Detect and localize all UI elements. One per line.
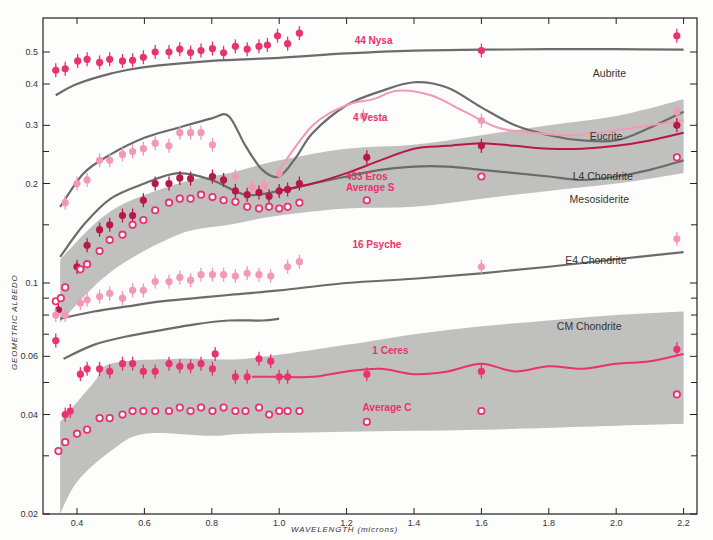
data-point bbox=[129, 57, 136, 64]
data-point bbox=[232, 408, 238, 414]
data-point bbox=[244, 270, 251, 277]
data-point bbox=[478, 117, 485, 124]
data-point bbox=[364, 419, 370, 425]
data-point bbox=[264, 41, 271, 48]
data-point bbox=[176, 274, 183, 281]
data-point bbox=[62, 65, 69, 72]
data-point bbox=[129, 212, 136, 219]
data-point bbox=[84, 261, 90, 267]
data-point bbox=[84, 296, 91, 303]
data-point bbox=[209, 173, 216, 180]
data-point bbox=[209, 45, 216, 52]
label-l4-chondrite: L4 Chondrite bbox=[573, 170, 633, 182]
data-point bbox=[255, 189, 262, 196]
data-point bbox=[177, 404, 183, 410]
data-point bbox=[152, 408, 158, 414]
label-average-c: Average C bbox=[362, 402, 411, 413]
x-tick-label: 2.0 bbox=[610, 518, 623, 528]
data-point bbox=[478, 173, 484, 179]
data-point bbox=[276, 373, 283, 380]
data-point bbox=[256, 404, 262, 410]
data-point bbox=[119, 232, 125, 238]
data-point bbox=[62, 284, 68, 290]
data-point bbox=[84, 365, 91, 372]
data-point bbox=[187, 408, 193, 414]
data-point bbox=[106, 368, 113, 375]
label-16-psyche: 16 Psyche bbox=[352, 239, 401, 250]
data-point bbox=[129, 148, 136, 155]
data-point bbox=[296, 408, 302, 414]
data-point bbox=[176, 174, 183, 181]
data-point bbox=[106, 237, 112, 243]
data-point bbox=[266, 411, 272, 417]
data-point bbox=[165, 180, 172, 187]
data-point bbox=[152, 278, 159, 285]
label-1-ceres: 1 Ceres bbox=[372, 345, 409, 356]
data-point bbox=[187, 277, 194, 284]
data-point bbox=[260, 182, 267, 189]
label-4-vesta: 4 Vesta bbox=[353, 112, 388, 123]
data-point bbox=[276, 205, 282, 211]
data-point bbox=[62, 311, 69, 318]
y-tick-label: 0.4 bbox=[25, 79, 38, 89]
x-tick-label: 0.4 bbox=[71, 518, 84, 528]
data-point bbox=[209, 365, 216, 372]
data-point bbox=[119, 411, 125, 417]
data-point bbox=[478, 368, 485, 375]
data-point bbox=[84, 242, 91, 249]
data-point bbox=[96, 157, 103, 164]
label-mesosiderite: Mesosiderite bbox=[570, 193, 630, 205]
data-point bbox=[232, 373, 239, 380]
data-point bbox=[255, 271, 262, 278]
data-point bbox=[255, 355, 262, 362]
data-point bbox=[197, 271, 204, 278]
data-point bbox=[119, 295, 126, 302]
data-point bbox=[363, 371, 370, 378]
data-point bbox=[220, 271, 227, 278]
data-point bbox=[177, 195, 183, 201]
x-tick-label: 0.6 bbox=[138, 518, 151, 528]
data-point bbox=[140, 217, 146, 223]
x-tick-label: 0.8 bbox=[206, 518, 219, 528]
data-point bbox=[52, 67, 59, 74]
data-point bbox=[276, 187, 283, 194]
data-point bbox=[674, 154, 680, 160]
data-point bbox=[176, 46, 183, 53]
data-point bbox=[244, 204, 250, 210]
x-tick-label: 1.8 bbox=[543, 518, 556, 528]
data-point bbox=[198, 404, 204, 410]
data-point bbox=[197, 360, 204, 367]
data-point bbox=[165, 48, 172, 55]
axis-ticks: 0.40.60.81.01.21.41.61.82.02.20.020.040.… bbox=[20, 18, 697, 528]
data-point bbox=[106, 221, 113, 228]
data-point bbox=[119, 151, 126, 158]
x-tick-label: 2.2 bbox=[677, 518, 690, 528]
data-point bbox=[152, 180, 159, 187]
data-point bbox=[255, 43, 262, 50]
data-point bbox=[364, 197, 370, 203]
label-average-s: Average S bbox=[346, 182, 395, 193]
data-point bbox=[673, 346, 680, 353]
data-point bbox=[478, 47, 485, 54]
data-point bbox=[55, 448, 61, 454]
data-point bbox=[220, 197, 226, 203]
data-point bbox=[166, 408, 172, 414]
data-point bbox=[62, 439, 68, 445]
data-point bbox=[140, 408, 146, 414]
data-point bbox=[106, 157, 113, 164]
x-tick-label: 1.0 bbox=[273, 518, 286, 528]
data-point bbox=[152, 140, 159, 147]
data-point bbox=[106, 56, 113, 63]
data-point bbox=[165, 360, 172, 367]
label-44-nysa: 44 Nysa bbox=[355, 35, 393, 46]
data-point bbox=[73, 180, 80, 187]
data-point bbox=[284, 263, 291, 270]
data-point bbox=[244, 191, 251, 198]
envelope-bands bbox=[60, 99, 683, 514]
data-point bbox=[209, 141, 216, 148]
data-point bbox=[77, 299, 84, 306]
data-point bbox=[256, 205, 262, 211]
data-point bbox=[274, 32, 281, 39]
x-tick-label: 1.4 bbox=[408, 518, 421, 528]
data-point bbox=[52, 337, 59, 344]
